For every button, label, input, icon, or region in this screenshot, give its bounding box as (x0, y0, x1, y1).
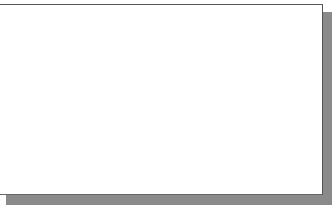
geometry-drawing (0, 0, 332, 205)
